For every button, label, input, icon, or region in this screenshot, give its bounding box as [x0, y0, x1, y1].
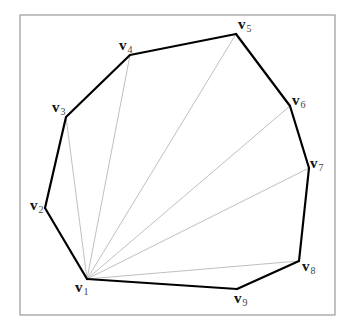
diagonal-v1-v4 [87, 55, 130, 279]
edge-v5-v6 [236, 34, 290, 106]
edges-group [45, 34, 309, 289]
edge-v6-v7 [290, 106, 309, 168]
labels-group: v1v2v3v4v5v6v7v8v9 [30, 16, 324, 308]
vertex-label-v5: v5 [238, 16, 252, 34]
edge-v9-v1 [87, 279, 237, 289]
vertex-label-subscript: 4 [128, 44, 133, 55]
vertex-label-subscript: 7 [319, 162, 324, 173]
vertex-label-main: v [75, 279, 83, 295]
vertex-label-main: v [30, 197, 38, 213]
vertex-label-v7: v7 [310, 155, 324, 173]
diagonals-group [66, 34, 309, 279]
vertex-label-main: v [52, 99, 60, 115]
vertex-label-v8: v8 [302, 258, 316, 276]
vertex-label-v1: v1 [75, 279, 89, 297]
edge-v4-v5 [130, 34, 236, 55]
vertex-label-subscript: 2 [39, 204, 44, 215]
vertex-label-main: v [238, 16, 246, 32]
vertex-label-v6: v6 [292, 92, 306, 110]
vertex-label-subscript: 5 [247, 23, 252, 34]
vertex-label-v4: v4 [119, 37, 133, 55]
vertex-label-v2: v2 [30, 197, 44, 215]
vertex-label-main: v [234, 290, 242, 306]
polygon-diagram: v1v2v3v4v5v6v7v8v9 [0, 0, 351, 332]
diagonal-v1-v3 [66, 117, 87, 279]
vertex-label-subscript: 6 [301, 99, 306, 110]
vertex-label-main: v [310, 155, 318, 171]
vertex-label-subscript: 9 [243, 297, 248, 308]
vertex-label-v3: v3 [52, 99, 66, 117]
vertex-label-subscript: 1 [84, 286, 89, 297]
edge-v1-v2 [45, 208, 87, 279]
vertex-label-main: v [292, 92, 300, 108]
vertex-label-v9: v9 [234, 290, 248, 308]
edge-v2-v3 [45, 117, 66, 208]
vertex-label-main: v [119, 37, 127, 53]
diagram-frame [20, 15, 335, 315]
edge-v7-v8 [299, 168, 309, 261]
vertex-label-subscript: 3 [61, 106, 66, 117]
edge-v3-v4 [66, 55, 130, 117]
vertex-label-subscript: 8 [311, 265, 316, 276]
vertex-label-main: v [302, 258, 310, 274]
